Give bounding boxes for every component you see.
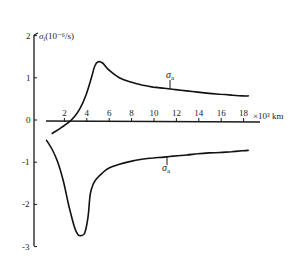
x-tick-label: 16: [217, 108, 227, 118]
lower-curve-label: σa: [162, 162, 171, 175]
x-axis: [46, 121, 260, 122]
y-tick-label: -2: [22, 199, 30, 209]
y-tick-label: 0: [26, 115, 31, 125]
x-tick-label: 4: [85, 108, 90, 118]
x-axis-unit: ×10³ km: [253, 111, 284, 121]
y-ticks: 210-1-2-3: [22, 31, 37, 252]
y-tick-label: 1: [26, 73, 31, 83]
y-axis-title: σi(10⁻⁶/s): [39, 31, 74, 42]
x-tick-label: 10: [150, 108, 160, 118]
x-tick-label: 8: [129, 108, 134, 118]
y-tick-label: -3: [22, 242, 30, 252]
x-tick-label: 14: [194, 108, 204, 118]
strain-rate-chart: 210-1-2-3 24681012141618 σi(10⁻⁶/s) ×10³…: [0, 0, 295, 260]
x-tick-label: 2: [62, 108, 67, 118]
y-axis-cap: [34, 33, 38, 35]
x-ticks: 24681012141618: [62, 108, 248, 122]
lower-curve: [47, 140, 249, 236]
series-group: [47, 62, 249, 236]
y-tick-label: -1: [22, 157, 30, 167]
x-tick-label: 18: [239, 108, 249, 118]
chart-canvas: 210-1-2-3 24681012141618 σi(10⁻⁶/s) ×10³…: [0, 0, 295, 260]
x-tick-label: 12: [172, 108, 181, 118]
y-tick-label: 2: [26, 31, 31, 41]
upper-curve: [52, 62, 248, 134]
x-tick-label: 6: [107, 108, 112, 118]
